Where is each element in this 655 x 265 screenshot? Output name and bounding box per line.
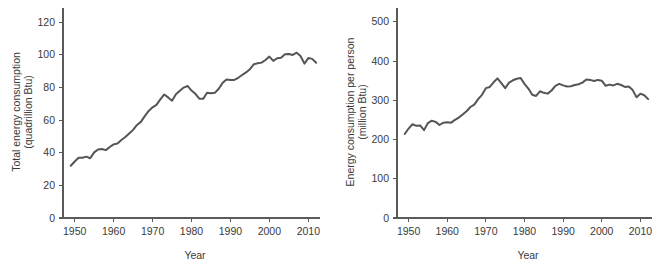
x-tick-label: 1990 — [551, 225, 575, 237]
y-axis-title-line2-left: (quadrillion Btu) — [22, 75, 34, 149]
x-tick-label: 1970 — [141, 225, 165, 237]
y-tick-label: 200 — [371, 133, 389, 145]
x-tick-label: 1960 — [436, 225, 460, 237]
y-axis-title-line1-left: Total energy consumption — [10, 52, 22, 172]
chart-panel-per-person: 0100200300400500 19501960197019801990200… — [328, 0, 655, 265]
x-tick-label: 2000 — [590, 225, 614, 237]
y-tick-label: 60 — [43, 114, 55, 126]
y-tick-marks-right — [393, 22, 397, 218]
y-tick-labels-left: 020406080100120 — [37, 16, 55, 224]
y-tick-label: 300 — [371, 94, 389, 106]
y-tick-marks-left — [59, 22, 63, 218]
y-tick-label: 400 — [371, 55, 389, 67]
x-tick-label: 1950 — [63, 225, 87, 237]
x-axis-group-right: 1950196019701980199020002010 — [397, 218, 652, 237]
x-tick-labels-right: 1950196019701980199020002010 — [397, 225, 652, 237]
y-tick-label: 40 — [43, 146, 55, 158]
x-tick-label: 1970 — [474, 225, 498, 237]
x-tick-label: 1980 — [513, 225, 537, 237]
x-axis-title-left: Year — [184, 249, 206, 261]
data-series-per-person — [405, 78, 648, 134]
x-tick-labels-left: 1950196019701980199020002010 — [63, 225, 320, 237]
data-series-total-energy — [71, 53, 316, 166]
y-axis-group-left: 020406080100120 — [37, 8, 63, 224]
x-tick-marks-right — [409, 218, 641, 222]
y-tick-label: 120 — [37, 16, 55, 28]
x-tick-label: 1950 — [397, 225, 421, 237]
x-tick-label: 1980 — [180, 225, 204, 237]
x-tick-label: 1960 — [102, 225, 126, 237]
y-tick-label: 100 — [371, 172, 389, 184]
y-tick-label: 0 — [49, 212, 55, 224]
y-tick-label: 80 — [43, 81, 55, 93]
x-tick-label: 2010 — [297, 225, 321, 237]
chart-panel-total-energy: 020406080100120 195019601970198019902000… — [0, 0, 327, 265]
chart-svg-total-energy: 020406080100120 195019601970198019902000… — [0, 0, 327, 265]
x-tick-label: 1990 — [219, 225, 243, 237]
y-axis-group-right: 0100200300400500 — [371, 8, 397, 224]
figure-root: 020406080100120 195019601970198019902000… — [0, 0, 655, 265]
y-axis-title-line1-right: Energy consumption per person — [344, 37, 356, 186]
y-tick-label: 0 — [383, 212, 389, 224]
chart-svg-per-person: 0100200300400500 19501960197019801990200… — [328, 0, 655, 265]
y-tick-label: 500 — [371, 15, 389, 27]
x-axis-title-right: Year — [517, 249, 539, 261]
y-tick-labels-right: 0100200300400500 — [371, 15, 389, 223]
y-tick-label: 20 — [43, 179, 55, 191]
x-axis-group-left: 1950196019701980199020002010 — [63, 218, 320, 237]
y-axis-title-line2-right: (million Btu) — [356, 84, 368, 139]
x-tick-label: 2000 — [258, 225, 282, 237]
x-tick-marks-left — [75, 218, 309, 222]
y-tick-label: 100 — [37, 48, 55, 60]
x-tick-label: 2010 — [629, 225, 653, 237]
